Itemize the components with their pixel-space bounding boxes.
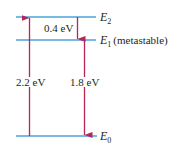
energy-level-diagram: E2 E1(metastable) E0 2.2 eV 0.4 eV 1.8 e… <box>0 0 181 152</box>
level-label-e1: E1(metastable) <box>99 33 168 49</box>
level-label-e0: E0 <box>99 129 111 145</box>
level-label-e2: E2 <box>99 10 111 26</box>
transition-label-emission: 1.8 eV <box>70 76 99 88</box>
transition-label-relax: 0.4 eV <box>44 22 73 34</box>
transition-label-pump: 2.2 eV <box>16 76 45 88</box>
